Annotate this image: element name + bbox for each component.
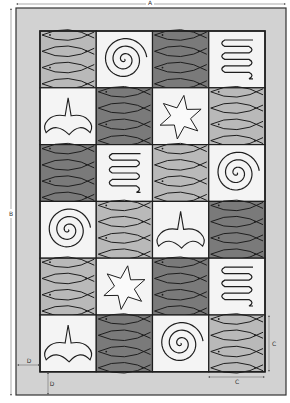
tile-bird: [40, 88, 96, 145]
tile-bird: [153, 201, 209, 258]
dimension-d-bottom-label: D: [50, 380, 55, 387]
tile-bird: [40, 315, 96, 372]
tile-star: [153, 88, 209, 145]
tile-fish-light: [40, 30, 96, 89]
tile-fish-dark: [153, 257, 209, 316]
tile-serpentine: [209, 31, 265, 88]
tile-serpentine: [96, 145, 152, 202]
tile-fish-light: [153, 143, 209, 202]
tile-fish-light: [40, 257, 96, 316]
tile-fish-dark: [153, 30, 209, 89]
tile-fish-dark: [96, 314, 152, 373]
tile-spiral: [209, 145, 265, 202]
tile-spiral: [40, 201, 96, 258]
tile-fish-dark: [40, 143, 96, 202]
dimension-c-vertical-label: C: [272, 340, 276, 347]
dimension-b-label: B: [9, 210, 13, 217]
tile-fish-light: [209, 86, 265, 145]
tile-fish-light: [209, 314, 265, 373]
dimension-c-horizontal-label: C: [235, 378, 239, 385]
tile-star: [96, 258, 152, 315]
tile-spiral: [153, 315, 209, 372]
tile-grid: [40, 30, 265, 373]
dimension-d-side-label: D: [27, 357, 32, 364]
tile-fish-dark: [96, 86, 152, 145]
dimension-b: B: [7, 9, 15, 395]
tile-fish-light: [96, 200, 152, 259]
tile-spiral: [96, 31, 152, 88]
tile-serpentine: [209, 258, 265, 315]
tile-fish-dark: [209, 200, 265, 259]
rug-diagram: A B D D C C: [0, 0, 290, 403]
dimension-a: A: [17, 0, 285, 6]
